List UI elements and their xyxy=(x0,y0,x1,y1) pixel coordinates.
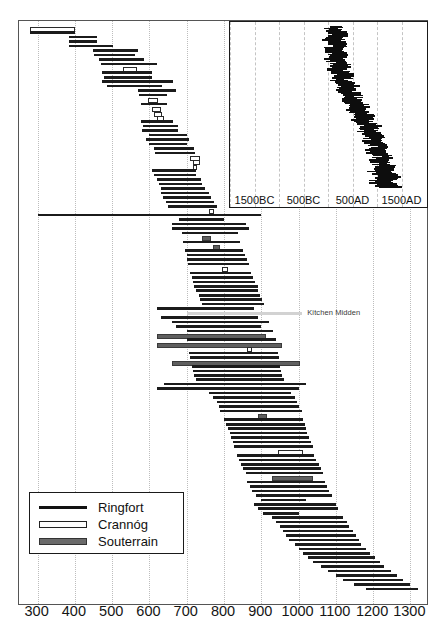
bar-ringfort xyxy=(107,85,161,88)
bar-ringfort xyxy=(220,410,301,413)
legend-swatch-souterrain xyxy=(39,538,87,545)
bar-ringfort xyxy=(308,556,375,559)
bar-ringfort xyxy=(200,298,262,301)
bar-ringfort xyxy=(163,196,211,199)
bar-ringfort xyxy=(272,516,343,519)
bar-souterrain xyxy=(157,343,282,348)
x-axis-tick-labels: 3004005006007008009001000110012001300 xyxy=(18,603,428,625)
bar-ringfort xyxy=(193,281,255,284)
bar-ringfort xyxy=(280,525,349,528)
bar-ringfort xyxy=(138,89,177,92)
bar-ringfort xyxy=(164,383,306,386)
inset-tick-1500BC: 1500BC xyxy=(235,194,275,206)
bar-ringfort xyxy=(202,303,265,306)
bar-ringfort xyxy=(192,365,280,368)
bar-ringfort xyxy=(193,370,281,373)
legend-swatch-crannog xyxy=(39,521,87,528)
inset-tick-500AD: 500AD xyxy=(336,194,370,206)
bar-ringfort xyxy=(185,249,242,252)
inset-bars-layer xyxy=(230,22,427,207)
bar-ringfort xyxy=(289,539,359,542)
bar-ringfort xyxy=(94,54,134,57)
bar-ringfort xyxy=(328,570,391,573)
bar-ringfort xyxy=(149,143,187,146)
bar-ringfort xyxy=(241,463,319,466)
bar-ringfort xyxy=(154,147,194,150)
bar-ringfort xyxy=(190,272,250,275)
bar-ringfort xyxy=(237,454,315,457)
bar-ringfort xyxy=(233,441,311,444)
x-tick-500: 500 xyxy=(99,603,123,619)
bar-ringfort xyxy=(183,241,240,244)
inset-bar xyxy=(379,186,402,188)
bar-ringfort xyxy=(226,423,304,426)
legend-label-ringfort: Ringfort xyxy=(98,501,144,514)
bar-ringfort xyxy=(141,103,168,106)
bar-ringfort xyxy=(276,521,347,524)
bar-ringfort xyxy=(146,138,188,141)
x-tick-400: 400 xyxy=(62,603,86,619)
bar-ringfort xyxy=(217,401,298,404)
bar-ringfort xyxy=(99,58,144,61)
bar-ringfort xyxy=(161,187,205,190)
bar-ringfort xyxy=(354,583,410,586)
legend-item-souterrain: Souterrain xyxy=(30,533,183,550)
bar-ringfort xyxy=(254,503,336,506)
bar-ringfort xyxy=(143,125,178,128)
bar-ringfort xyxy=(256,494,332,497)
bar-ringfort xyxy=(283,530,353,533)
bar-ringfort xyxy=(243,467,321,470)
bar-ringfort xyxy=(343,579,403,582)
bar-ringfort xyxy=(187,338,276,341)
bar-ringfort xyxy=(196,289,258,292)
inset-tick-500BC: 500BC xyxy=(287,194,321,206)
bar-ringfort xyxy=(234,445,312,448)
bar-ringfort xyxy=(157,387,299,390)
bar-ringfort xyxy=(303,552,370,555)
bar-ringfort xyxy=(102,71,152,74)
bar-ringfort xyxy=(102,80,172,83)
bar-ringfort xyxy=(246,472,324,475)
bar-ringfort xyxy=(239,459,317,462)
bar-ringfort xyxy=(219,405,299,408)
inset-axis-labels: 1500BC500BC500AD1500AD xyxy=(230,190,427,206)
x-tick-800: 800 xyxy=(211,603,235,619)
x-tick-1300: 1300 xyxy=(393,603,425,619)
bar-ringfort xyxy=(101,63,157,66)
bar-ringfort xyxy=(141,120,173,123)
bar-ringfort xyxy=(139,94,167,97)
bar-ringfort xyxy=(172,227,249,230)
x-tick-300: 300 xyxy=(25,603,49,619)
x-tick-1000: 1000 xyxy=(281,603,313,619)
bar-ringfort xyxy=(166,201,214,204)
bar-ringfort xyxy=(252,490,329,493)
bar-ringfort xyxy=(176,325,262,328)
legend-swatch-ringfort xyxy=(39,506,87,509)
x-tick-600: 600 xyxy=(136,603,160,619)
x-tick-1100: 1100 xyxy=(319,603,350,619)
bar-ringfort xyxy=(213,396,295,399)
bar-ringfort xyxy=(157,178,201,181)
bar-ringfort xyxy=(30,31,75,34)
bar-ringfort xyxy=(157,307,254,310)
legend-label-souterrain: Souterrain xyxy=(98,535,158,548)
bar-ringfort xyxy=(168,205,217,208)
bar-ringfort xyxy=(192,276,253,279)
bar-ringfort xyxy=(69,36,97,39)
legend-item-ringfort: Ringfort xyxy=(30,499,183,516)
bar-ringfort xyxy=(199,294,260,297)
midden-label: Kitchen Midden xyxy=(307,308,360,317)
bar-ringfort xyxy=(187,330,273,333)
bar-ringfort xyxy=(179,218,224,221)
bar-ringfort xyxy=(152,169,196,172)
chart-root: Kitchen Midden 3004005006007008009001000… xyxy=(0,0,447,633)
bar-ringfort xyxy=(190,356,279,359)
bar-ringfort xyxy=(187,258,247,261)
bar-ringfort xyxy=(263,512,299,515)
x-tick-1200: 1200 xyxy=(356,603,388,619)
bar-ringfort xyxy=(154,174,196,177)
bar-ringfort xyxy=(155,152,195,155)
bar-ringfort xyxy=(188,263,249,266)
bar-ringfort xyxy=(196,378,283,381)
bar-ringfort xyxy=(231,436,309,439)
